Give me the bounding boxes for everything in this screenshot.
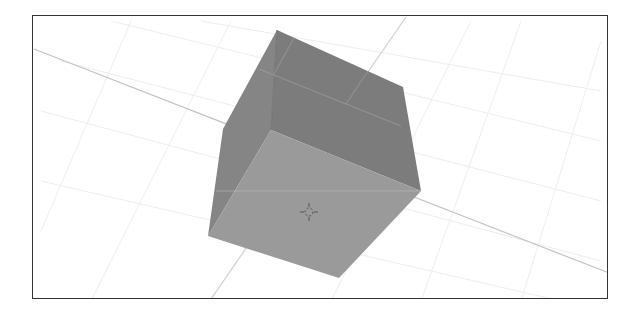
3d-viewport[interactable] (32, 15, 608, 299)
cube[interactable] (208, 30, 421, 278)
viewport-scene (33, 16, 608, 299)
